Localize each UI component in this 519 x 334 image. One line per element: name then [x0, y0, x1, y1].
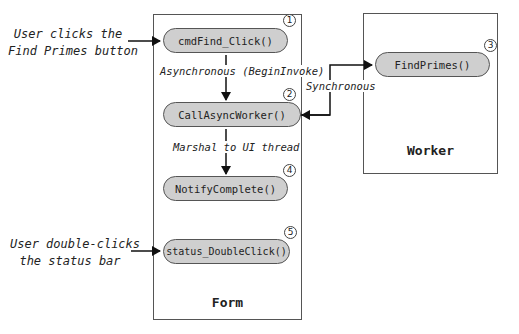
node-label: NotifyComplete(): [175, 183, 276, 195]
external-label-line: the status bar: [10, 253, 130, 270]
external-label-find-primes: User clicks the Find Primes button: [8, 26, 128, 60]
node-label: cmdFind_Click(): [178, 35, 273, 47]
step-number-badge: 1: [283, 14, 296, 27]
node-label: CallAsyncWorker(): [178, 109, 285, 121]
node-label: status_DoubleClick(): [166, 246, 286, 257]
step-number-badge: 4: [283, 164, 296, 177]
step-number-badge: 3: [484, 39, 497, 52]
node-callasyncworker: CallAsyncWorker(): [163, 102, 301, 127]
edge-label-sync: Synchronous: [305, 80, 377, 92]
node-cmdfind-click: cmdFind_Click(): [163, 28, 288, 53]
node-label: FindPrimes(): [395, 59, 471, 71]
edge-label-async: Asynchronous (BeginInvoke): [159, 65, 325, 77]
node-findprimes: FindPrimes(): [375, 52, 490, 77]
external-label-line: User clicks the: [8, 26, 128, 43]
external-label-line: User double-clicks: [10, 236, 130, 253]
step-number-badge: 5: [284, 226, 297, 239]
step-number-badge: 2: [283, 88, 296, 101]
node-notifycomplete: NotifyComplete(): [163, 176, 288, 201]
external-label-line: Find Primes button: [8, 43, 128, 60]
node-status-doubleclick: status_DoubleClick(): [163, 239, 290, 264]
edge-label-marshal: Marshal to UI thread: [172, 141, 300, 153]
external-label-status-bar: User double-clicks the status bar: [10, 236, 130, 270]
